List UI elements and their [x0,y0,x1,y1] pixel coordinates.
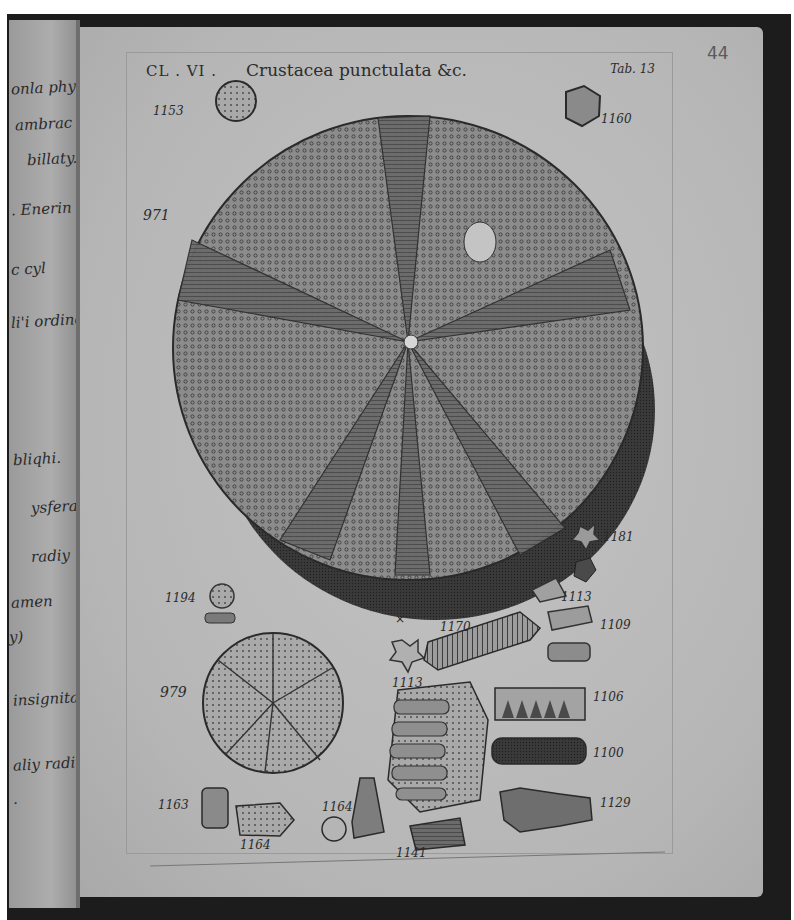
figure-971 [173,116,643,580]
figure-1106 [495,688,585,720]
figure-label-1113-star: 1113 [392,676,423,690]
figure-label-1106: 1106 [593,690,624,704]
figure-label-1109: 1109 [600,618,631,632]
figure-label-1141: 1141 [396,846,427,860]
figure-1109 [548,606,592,630]
figure-label-x: × [395,612,405,626]
figure-1113-star [390,640,424,672]
figure-1153 [216,81,256,121]
figure-1164-cross-section [322,817,346,841]
figure-1164-reticulated [236,803,294,836]
figure-label-1113: 1113 [561,590,592,604]
figure-label-1160: 1160 [601,112,632,126]
engraving-illustration [0,0,794,920]
figure-979 [203,633,343,773]
figure-1109b [548,643,590,661]
figure-1129 [500,788,592,832]
figure-label-1164-a: 1164 [240,838,271,852]
figure-1160 [566,86,600,126]
figure-label-979: 979 [160,684,187,700]
figure-1163 [202,788,228,828]
figure-label-1181: 1181 [603,530,634,544]
figure-label-1100: 1100 [593,746,624,760]
figure-1100 [492,738,586,764]
figure-label-1194: 1194 [165,591,196,605]
figure-spine-small [574,558,596,582]
figure-label-1170: 1170 [440,620,471,634]
figure-label-1163: 1163 [158,798,189,812]
figure-label-1129: 1129 [600,796,631,810]
figure-1194 [205,584,235,623]
figure-large-jaw [388,682,488,812]
figure-label-1153: 1153 [153,104,184,118]
figure-label-971: 971 [143,207,170,223]
figure-1164-club [352,778,384,838]
figure-label-1164-b: 1164 [322,800,353,814]
